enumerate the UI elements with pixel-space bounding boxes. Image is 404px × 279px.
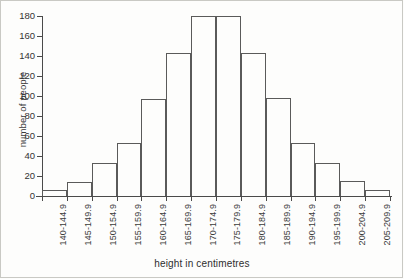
histogram-bar [241, 53, 266, 196]
x-axis-tick-label: 175-179.9 [232, 204, 242, 245]
x-axis-tick-label: 200-204.9 [357, 204, 367, 245]
histogram-bar [266, 98, 291, 196]
y-axis-tick: 140 [37, 56, 42, 57]
histogram-bar [141, 99, 166, 196]
x-axis-tick [67, 196, 68, 201]
y-axis-tick: 160 [37, 36, 42, 37]
y-axis-tick-label: 40 [24, 150, 35, 161]
y-axis-tick-label: 0 [30, 190, 35, 201]
x-axis-tick [241, 196, 242, 201]
x-axis-line [36, 196, 392, 197]
x-axis-tick [191, 196, 192, 201]
histogram-bar [191, 16, 216, 196]
y-axis-tick: 180 [37, 16, 42, 17]
y-axis-tick-label: 80 [24, 110, 35, 121]
histogram-bar [216, 16, 241, 196]
histogram-bar [340, 181, 365, 196]
x-axis-tick-label: 205-209.9 [382, 204, 392, 245]
histogram-bar [166, 53, 191, 196]
x-axis-tick-label: 195-199.9 [332, 204, 342, 245]
x-axis-tick-label: 180-184.9 [257, 204, 267, 245]
y-axis-tick: 40 [37, 156, 42, 157]
y-axis-tick: 80 [37, 116, 42, 117]
histogram-bar [67, 182, 92, 196]
histogram-bar [291, 143, 316, 196]
y-axis-tick-label: 20 [24, 170, 35, 181]
y-axis-tick-label: 160 [19, 30, 35, 41]
histogram-bar [42, 190, 67, 196]
y-axis-tick-label: 60 [24, 130, 35, 141]
x-axis-tick-label: 185-189.9 [282, 204, 292, 245]
y-axis-tick-label: 120 [19, 70, 35, 81]
x-axis-tick [266, 196, 267, 201]
x-axis-tick-label: 145-149.9 [83, 204, 93, 245]
x-axis-tick [42, 196, 43, 201]
x-axis-tick-label: 160-164.9 [158, 204, 168, 245]
x-axis-tick-label: 150-154.9 [108, 204, 118, 245]
x-axis-tick-label: 165-169.9 [183, 204, 193, 245]
y-axis-tick: 100 [37, 96, 42, 97]
x-axis-tick-label: 190-194.9 [307, 204, 317, 245]
y-axis-tick-label: 100 [19, 90, 35, 101]
x-axis-tick [365, 196, 366, 201]
x-axis-tick [390, 196, 391, 201]
x-axis-tick-label: 170-174.9 [208, 204, 218, 245]
x-axis-tick-label: 155-159.9 [133, 204, 143, 245]
x-axis-tick [141, 196, 142, 201]
x-axis-title: height in centimetres [0, 258, 404, 269]
y-axis-tick: 20 [37, 176, 42, 177]
x-axis-tick [216, 196, 217, 201]
x-axis-tick [340, 196, 341, 201]
histogram-bar [117, 143, 142, 196]
histogram-bar [365, 190, 390, 196]
plot-area: 020406080100120140160180 [42, 16, 390, 196]
y-axis-tick-label: 140 [19, 50, 35, 61]
y-axis-line [42, 16, 43, 197]
x-axis-tick [291, 196, 292, 201]
histogram-bar [315, 163, 340, 196]
x-axis-tick [92, 196, 93, 201]
y-axis-tick-label: 180 [19, 10, 35, 21]
x-axis-tick [166, 196, 167, 201]
x-axis-tick-label: 140-144.9 [58, 204, 68, 245]
y-axis-tick: 60 [37, 136, 42, 137]
histogram-bar [92, 163, 117, 196]
x-axis-tick [315, 196, 316, 201]
y-axis-tick: 120 [37, 76, 42, 77]
x-axis-tick [117, 196, 118, 201]
histogram-chart: number of people 02040608010012014016018… [0, 0, 404, 279]
